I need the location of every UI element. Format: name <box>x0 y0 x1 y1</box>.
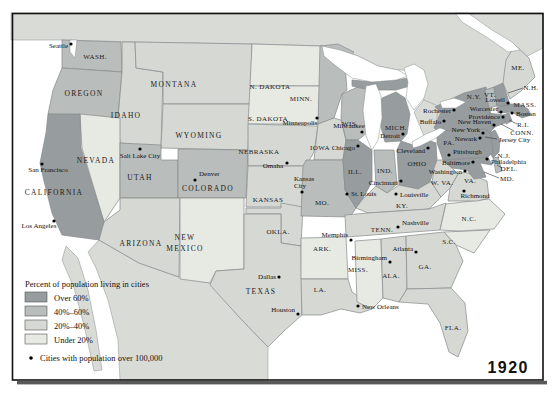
legend-label-under20: Under 20% <box>54 335 93 345</box>
city-label-birmingham: Birmingham <box>352 254 388 262</box>
city-label-lowell: Lowell <box>485 96 505 104</box>
label-delaware: DEL. <box>501 165 518 173</box>
city-label-jersey-city: Jersey City <box>499 136 531 144</box>
city-label-seattle: Seattle <box>49 42 68 50</box>
label-minnesota: MINN. <box>290 95 312 103</box>
label-ohio: OHIO <box>407 160 426 168</box>
label-missouri: MO. <box>315 199 329 207</box>
label-tennessee: TENN. <box>371 226 393 234</box>
city-label-providence: Providence <box>469 113 501 121</box>
label-iowa: IOWA <box>310 144 330 152</box>
city-label-richmond: Richmond <box>460 192 490 200</box>
label-alabama: ALA. <box>382 272 400 280</box>
city-label-rochester: Rochester <box>423 107 452 115</box>
label-wyoming: WYOMING <box>175 131 222 140</box>
city-dot-milwaukee <box>360 130 363 133</box>
city-label-salt-lake-city: Salt Lake City <box>120 152 161 160</box>
label-virginia: VA. <box>464 177 476 185</box>
frame-shadow <box>17 381 547 385</box>
city-dot-nashville <box>396 225 399 228</box>
city-label-baltimore: Baltimore <box>442 159 470 167</box>
label-maine: ME. <box>511 64 524 72</box>
city-label-chicago: Chicago <box>332 144 356 152</box>
label-oregon: OREGON <box>64 89 103 98</box>
city-dot-new-orleans <box>356 304 359 307</box>
label-massachusetts: MASS. <box>514 101 537 109</box>
legend-label-over60: Over 60% <box>54 293 89 303</box>
city-label-houston: Houston <box>271 306 295 314</box>
city-dot-new-york <box>481 131 484 134</box>
label-nebraska: NEBRASKA <box>239 148 280 156</box>
label-california: CALIFORNIA <box>25 188 83 197</box>
city-dot-philadelphia <box>485 157 488 160</box>
city-label-louisville: Louisville <box>400 191 428 199</box>
label-idaho: IDAHO <box>111 111 142 120</box>
label-south-carolina: S.C. <box>442 238 456 246</box>
city-dot-cincinnati <box>399 179 402 182</box>
city-label-newark: Newark <box>455 135 478 143</box>
label-louisiana: LA. <box>314 286 326 294</box>
city-label-omaha: Omaha <box>263 162 284 170</box>
city-label-milwaukee: Milwaukee <box>333 122 365 130</box>
label-utah: UTAH <box>127 173 152 182</box>
label-georgia: GA. <box>418 263 431 271</box>
city-dot-baltimore <box>471 160 474 163</box>
city-label-minneapolis: Minneapolis <box>283 119 318 127</box>
city-dot-omaha <box>285 161 288 164</box>
city-dot-detroit <box>401 132 404 135</box>
city-dot-seattle <box>69 42 72 45</box>
city-dot-salt-lake-city <box>138 147 141 150</box>
city-label-buffalo: Buffalo <box>420 118 442 126</box>
city-label-detroit: Detroit <box>380 132 400 140</box>
state-arkansas <box>301 237 348 279</box>
label-rhode-island: R.I. <box>517 121 529 129</box>
label-illinois: ILL. <box>348 168 362 176</box>
city-label-los-angeles: Los Angeles <box>22 222 57 230</box>
label-north-carolina: N.C. <box>462 215 477 223</box>
city-label-atlanta: Atlanta <box>392 245 413 253</box>
label-oklahoma: OKLA. <box>266 228 289 236</box>
city-dot-newark <box>478 136 481 139</box>
city-label-pittsburgh: Pittsburgh <box>453 148 482 156</box>
label-new-mexico-line2: MEXICO <box>166 244 203 253</box>
city-dot-chicago <box>356 144 359 147</box>
city-dot-denver <box>193 178 196 181</box>
city-dot-pittsburgh <box>447 153 450 156</box>
label-maryland: MD. <box>500 175 514 183</box>
label-michigan: MICH. <box>385 124 407 132</box>
city-label-philadelphia: Philadelphia <box>491 158 527 166</box>
city-label-new-york: New York <box>452 126 481 134</box>
state-mississippi <box>355 239 383 309</box>
city-dot-atlanta <box>414 250 417 253</box>
label-arizona: ARIZONA <box>120 239 163 248</box>
city-label-kansas-city-line2: City <box>294 182 307 190</box>
year-label: 1920 <box>487 359 529 376</box>
city-dot-worcester <box>499 110 502 113</box>
city-label-san-francisco: San Francisco <box>28 166 68 174</box>
city-label-worcester: Worcester <box>470 105 499 113</box>
label-new-hampshire: N.H. <box>523 84 538 92</box>
label-north-dakota: N. DAKOTA <box>249 83 290 91</box>
label-new-mexico-line1: NEW <box>175 233 196 242</box>
legend-swatch-20-40 <box>25 320 47 330</box>
legend-city-dot <box>29 356 33 360</box>
city-dot-houston <box>296 312 299 315</box>
legend-swatch-over60 <box>25 292 47 302</box>
state-wyoming <box>161 104 250 150</box>
label-new-york: N.Y. <box>467 93 481 101</box>
us-map: WASH. OREGON CALIFORNIA NEVADA IDAHO MON… <box>0 0 553 394</box>
legend-swatch-under20 <box>25 334 47 344</box>
label-colorado: COLORADO <box>182 184 234 193</box>
legend-title: Percent of population living in cities <box>25 279 149 289</box>
city-label-nashville: Nashville <box>402 219 429 227</box>
city-label-cleveland: Cleveland <box>397 147 426 155</box>
label-mississippi: MISS. <box>348 266 368 274</box>
label-florida: FLA. <box>445 324 462 332</box>
label-indiana: IND. <box>377 167 393 175</box>
city-label-memphis: Memphis <box>322 231 349 239</box>
city-dot-buffalo <box>442 119 445 122</box>
city-dot-memphis <box>349 238 352 241</box>
city-label-st-louis: St. Louis <box>351 190 377 198</box>
label-pennsylvania: PA. <box>443 139 454 147</box>
city-dot-new-haven <box>492 123 495 126</box>
